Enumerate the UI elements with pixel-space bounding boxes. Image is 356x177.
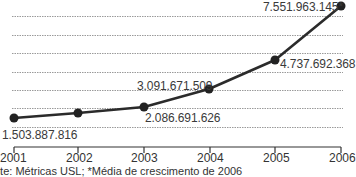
point-label-2004: 3.091.671.509: [137, 80, 212, 92]
x-tick-2004: 2004: [197, 152, 224, 164]
marker-2005: [271, 56, 280, 65]
x-tick-2003: 2003: [131, 152, 158, 164]
x-tick-2005: 2005: [263, 152, 290, 164]
x-axis: [14, 147, 341, 153]
point-label-2006: 7.551.963.145*: [263, 1, 343, 13]
point-label-2005: 4.737.692.368: [280, 58, 355, 70]
point-label-2003: 2.086.691.626: [145, 112, 220, 124]
x-tick-2006: 2006: [329, 152, 356, 164]
point-label-2001: 1.503.887.816: [2, 129, 77, 141]
source-caption: nte: Métricas USL; *Média de crescimento…: [0, 166, 242, 177]
x-tick-2001: 2001: [0, 152, 27, 164]
marker-2001: [10, 114, 19, 123]
x-tick-2002: 2002: [66, 152, 93, 164]
marker-2002: [74, 109, 83, 118]
